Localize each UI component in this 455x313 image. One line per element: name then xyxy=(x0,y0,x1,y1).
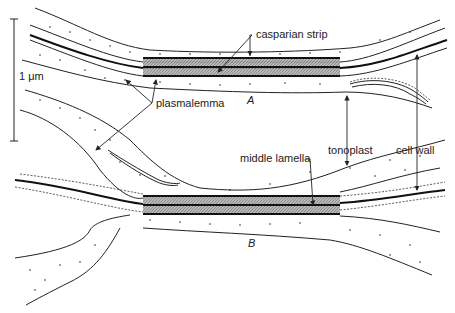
plasmalemma-label: plasmalemma xyxy=(156,98,224,109)
casparian-strip-label: casparian strip xyxy=(256,29,328,40)
cell-a xyxy=(22,8,447,108)
middle-lamella-label: middle lamella xyxy=(240,153,310,164)
cell-wall-label: cell wall xyxy=(396,145,435,156)
panel-a-label: A xyxy=(247,95,254,106)
scale-bar-label: 1 μm xyxy=(19,71,44,82)
tonoplast-label: tonoplast xyxy=(328,145,373,156)
scale-bar xyxy=(10,19,18,141)
panel-b-label: B xyxy=(248,238,255,249)
cell-b xyxy=(15,90,445,305)
diagram-canvas xyxy=(0,0,455,313)
